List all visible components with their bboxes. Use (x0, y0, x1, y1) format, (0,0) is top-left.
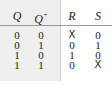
header-q: Q (7, 11, 27, 21)
header-s: S (88, 11, 108, 21)
header-q-plus: Q+ (31, 11, 51, 24)
header-divider (0, 25, 112, 26)
cell-r3-q: 1 (7, 60, 27, 70)
column-divider (60, 0, 61, 81)
cell-r3-s: X (88, 60, 108, 70)
cell-r3-qplus: 1 (31, 60, 51, 70)
header-r: R (62, 11, 82, 21)
cell-r3-r: 0 (62, 60, 82, 70)
